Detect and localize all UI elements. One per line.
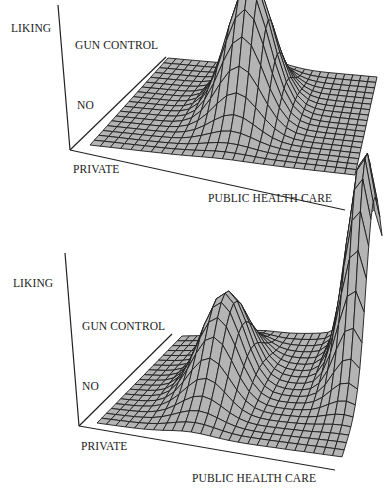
axis-label-private: PRIVATE bbox=[81, 440, 128, 452]
surface-mesh bbox=[97, 153, 382, 457]
axis-label-gun-control: GUN CONTROL bbox=[82, 320, 165, 332]
axis-label-public-health-care: PUBLIC HEALTH CARE bbox=[192, 472, 316, 484]
axis-label-liking: LIKING bbox=[13, 277, 53, 289]
surface-chart-bottom: LIKING GUN CONTROL NO PRIVATE PUBLIC HEA… bbox=[0, 0, 384, 501]
surface-plot-bottom bbox=[0, 0, 384, 501]
axis-label-no: NO bbox=[82, 380, 99, 392]
